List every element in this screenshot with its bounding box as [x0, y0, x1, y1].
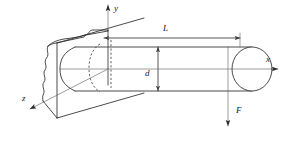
z-axis-label: z — [21, 93, 26, 103]
wall-front-bottom-edge — [57, 93, 144, 118]
y-axis-label: y — [113, 3, 118, 13]
x-axis-label: x — [265, 54, 270, 64]
shaft-cylinder — [60, 40, 272, 92]
wall-bottom-left-edge — [43, 101, 57, 118]
z-axis-group: z — [21, 69, 108, 109]
cantilever-shaft-diagram: x y z L d F — [0, 0, 288, 141]
engineering-figure: x y z L d F — [0, 0, 288, 141]
force-label: F — [235, 105, 242, 115]
wall-front-top-edge — [57, 18, 144, 43]
length-dimension: L — [104, 23, 240, 47]
y-axis-group: y — [108, 3, 118, 85]
wall-block — [43, 18, 144, 118]
z-axis-line — [30, 69, 108, 109]
length-label: L — [162, 23, 168, 33]
hidden-root-arc — [89, 44, 100, 92]
wall-left-broken-edge — [43, 46, 48, 101]
diameter-label: d — [145, 68, 150, 78]
